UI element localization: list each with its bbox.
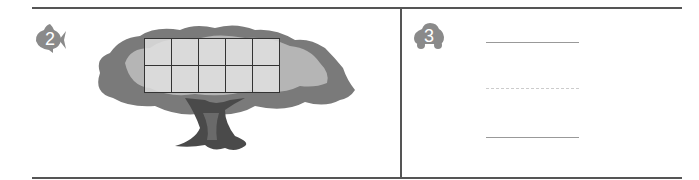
writing-line-top[interactable]: [486, 42, 579, 43]
ten-frame-cell[interactable]: [226, 39, 253, 66]
writing-line-middle[interactable]: [486, 88, 579, 89]
ten-frame-cell[interactable]: [172, 66, 199, 93]
problem-number: 2: [45, 29, 55, 50]
bottom-border: [32, 177, 682, 179]
ten-frame: [144, 38, 280, 93]
ten-frame-cell[interactable]: [145, 39, 172, 66]
ten-frame-cell[interactable]: [253, 39, 280, 66]
panel-divider: [400, 8, 402, 179]
ten-frame-cell[interactable]: [199, 39, 226, 66]
top-border: [32, 7, 682, 9]
writing-line-bottom[interactable]: [486, 137, 579, 138]
problem-3-badge: 3: [412, 21, 446, 51]
ten-frame-cell[interactable]: [226, 66, 253, 93]
ten-frame-cell[interactable]: [199, 66, 226, 93]
ten-frame-cell[interactable]: [253, 66, 280, 93]
problem-number: 3: [424, 26, 434, 47]
problem-2-badge: 2: [33, 22, 67, 56]
ten-frame-cell[interactable]: [145, 66, 172, 93]
ten-frame-cell[interactable]: [172, 39, 199, 66]
